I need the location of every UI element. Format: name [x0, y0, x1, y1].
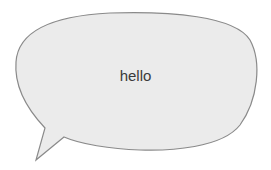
- speech-bubble-outline: [16, 13, 257, 160]
- speech-bubble-text: hello: [0, 66, 271, 86]
